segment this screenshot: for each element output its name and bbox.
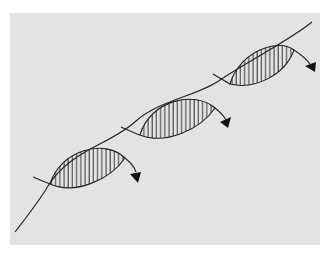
ribbon-tail-right [125, 158, 136, 172]
ribbon-lens [50, 148, 125, 187]
arrow-icon [305, 62, 316, 72]
arrow-icon [130, 172, 141, 183]
ribbon-tail-left [121, 127, 140, 135]
helix-twist-2 [121, 99, 231, 138]
ribbon-lens [230, 45, 294, 85]
helix-diagram [0, 0, 331, 254]
ribbon-tail-right [294, 50, 310, 64]
ribbon-tail-right [215, 108, 226, 120]
helix-twist-3 [213, 45, 316, 85]
ribbon-lens [140, 99, 215, 138]
ribbon-tail-left [33, 177, 50, 184]
helix-twist-1 [33, 148, 141, 187]
